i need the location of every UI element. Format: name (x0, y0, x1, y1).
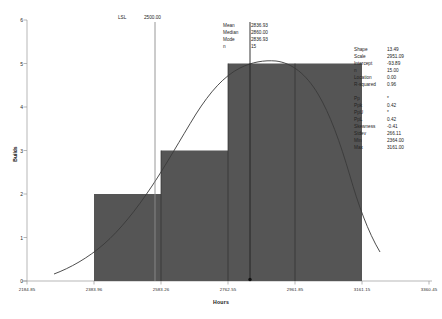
stat-label: Mode (223, 36, 251, 43)
histogram-bar (228, 64, 295, 282)
x-tick-label: 2961.85 (287, 287, 304, 292)
stat-value: * (387, 109, 419, 116)
stat-label: Median (223, 29, 251, 36)
x-tick-marks (27, 281, 429, 285)
stat-label: Ppk (354, 102, 387, 109)
stat-row: Mode2836.93 (223, 36, 291, 43)
y-axis-title: Builds (12, 146, 18, 161)
chart-canvas: 0 1 2 3 4 5 6 2184.85 2383.96 2583.26 27… (0, 0, 442, 319)
stat-label: PpL (354, 116, 387, 123)
stat-label: Pp (354, 95, 387, 102)
y-tick-label: 2 (9, 191, 23, 197)
x-tick-label: 2762.55 (220, 287, 237, 292)
stat-value: -93.89 (387, 60, 419, 67)
stat-row: Median2860.00 (223, 29, 291, 36)
x-tick-label: 3360.45 (421, 287, 438, 292)
stat-row: Intercept-93.89 (354, 60, 419, 67)
stat-label: Max (354, 144, 387, 151)
x-tick-label: 2583.26 (153, 287, 170, 292)
stat-value: 0.00 (387, 74, 419, 81)
center-statistics-block: Mean2836.93 Median2860.00 Mode2836.93 n1… (223, 22, 291, 50)
stat-value: -0.41 (387, 123, 419, 130)
stat-label: Location (354, 74, 387, 81)
stat-label: Shape (354, 46, 387, 53)
stat-value: 2364.00 (387, 137, 419, 144)
x-tick-label: 3161.15 (354, 287, 371, 292)
stat-value: 0.42 (387, 102, 419, 109)
stat-row: Pp* (354, 95, 419, 102)
y-tick-label: 5 (9, 61, 23, 67)
histogram-bar (161, 151, 228, 282)
stat-row: R-squared0.96 (354, 81, 419, 88)
y-tick-label: 0 (9, 278, 23, 284)
stat-value: 2836.93 (251, 36, 291, 43)
histogram-bar (94, 194, 161, 281)
stat-row: Location0.00 (354, 74, 419, 81)
stat-label: Stdev (354, 130, 387, 137)
stat-value: 13.49 (387, 46, 419, 53)
y-tick-label: 4 (9, 104, 23, 110)
stat-label: n (223, 43, 251, 50)
lsl-annotation: LSL2500.00 (118, 15, 161, 20)
right-statistics-block: Shape13.49 Scale2951.09 Intercept-93.89 … (354, 46, 419, 151)
stat-row: PpL0.42 (354, 116, 419, 123)
stat-value: * (387, 95, 419, 102)
stat-label: PpU (354, 109, 387, 116)
stat-row: Min2364.00 (354, 137, 419, 144)
stat-value: 0.96 (387, 81, 419, 88)
stat-row: Shape13.49 (354, 46, 419, 53)
stat-row: Max3161.00 (354, 144, 419, 151)
stat-label: R-squared (354, 81, 387, 88)
stat-label: Mean (223, 22, 251, 29)
stat-row: Scale2951.09 (354, 53, 419, 60)
stat-label: Intercept (354, 60, 387, 67)
x-tick-label: 2383.96 (86, 287, 103, 292)
stat-value: 266.11 (387, 130, 419, 137)
stat-value: 15 (251, 43, 291, 50)
lsl-label-text: LSL (118, 15, 144, 20)
stat-label: n (354, 67, 387, 74)
stat-value: 0.42 (387, 116, 419, 123)
stat-label: Skewness (354, 123, 387, 130)
stat-row: Skewness-0.41 (354, 123, 419, 130)
lsl-value-text: 2500.00 (144, 15, 161, 20)
histogram-bar (295, 64, 362, 282)
stat-value: 15.00 (387, 67, 419, 74)
y-tick-marks (24, 20, 28, 281)
mean-marker (248, 278, 251, 281)
y-tick-label: 1 (9, 235, 23, 241)
stat-row: Ppk0.42 (354, 102, 419, 109)
stat-value: 2860.00 (251, 29, 291, 36)
stat-row: n15.00 (354, 67, 419, 74)
stat-row: Stdev266.11 (354, 130, 419, 137)
x-axis-title: Hours (0, 299, 442, 305)
stat-row: PpU* (354, 109, 419, 116)
stat-row: n15 (223, 43, 291, 50)
y-tick-label: 6 (9, 17, 23, 23)
x-tick-label: 2184.85 (19, 287, 36, 292)
stat-value: 2836.93 (251, 22, 291, 29)
stat-label: Scale (354, 53, 387, 60)
stat-label: Min (354, 137, 387, 144)
stat-value: 2951.09 (387, 53, 419, 60)
stat-row: Mean2836.93 (223, 22, 291, 29)
stat-value: 3161.00 (387, 144, 419, 151)
